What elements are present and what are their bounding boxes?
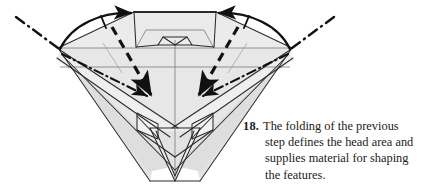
figure-page: 18.The folding of the previous step defi… <box>0 0 427 188</box>
step-number: 18. <box>243 119 259 133</box>
right-dash-dot-axis <box>292 17 334 48</box>
caption-line-4: the features. <box>243 167 427 183</box>
caption-line-2: step defines the head area and <box>243 134 427 150</box>
caption-text-1: The folding of the previous <box>263 119 399 133</box>
caption-line-3: supplies material for shaping <box>243 150 427 166</box>
step-caption: 18.The folding of the previous step defi… <box>243 118 427 183</box>
caption-line-1: 18.The folding of the previous <box>243 118 427 134</box>
left-dash-dot-axis <box>16 17 58 48</box>
